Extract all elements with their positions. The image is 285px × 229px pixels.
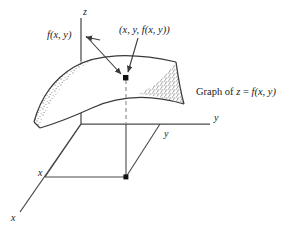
caption-args: (x, y) [254,86,276,98]
surface-patch [34,56,184,128]
x-inner-label: x [37,167,43,178]
base-point-marker [123,174,128,179]
surface-graph-figure: z y x y x f(x, y) (x, y, f(x, y)) Graph … [0,0,285,229]
surface-point-marker [123,75,128,80]
y-inner-label: y [163,128,169,139]
base-edge-right [126,124,160,177]
point-label: (x, y, f(x, y)) [119,24,170,36]
base-edge-left [45,124,81,177]
y-axis-label: y [213,112,219,123]
x-axis-label: x [10,212,16,223]
caption: Graph of z = f(x, y) [196,86,277,98]
caption-prefix: Graph of [196,86,236,97]
height-label: f(x, y) [47,29,72,41]
z-axis-label: z [82,6,87,17]
caption-equals: = [240,86,251,97]
